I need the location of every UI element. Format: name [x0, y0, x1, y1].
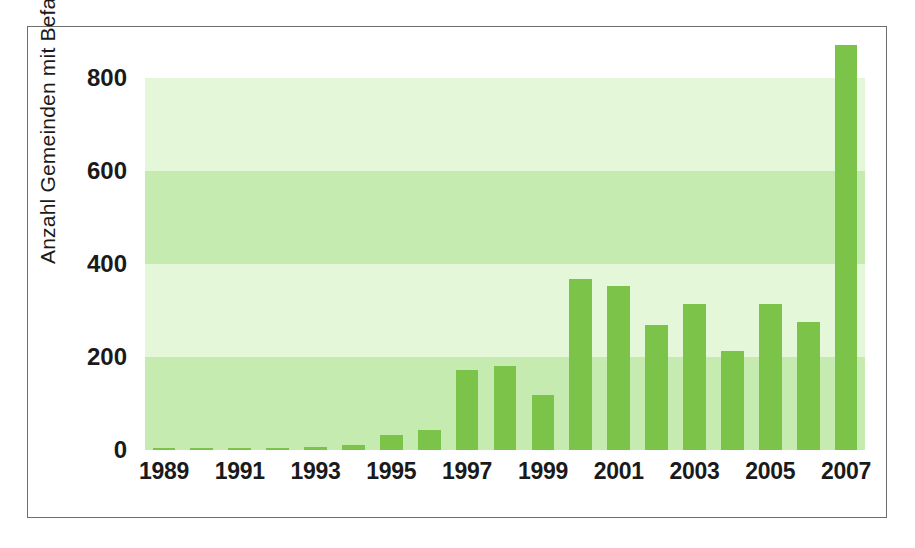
bar-1989 — [153, 448, 176, 450]
x-tick-label-1991: 1991 — [215, 458, 265, 485]
bar-2007 — [835, 45, 858, 450]
x-tick-label-1995: 1995 — [366, 458, 416, 485]
bar-1997 — [456, 370, 479, 450]
x-tick-label-1993: 1993 — [291, 458, 341, 485]
y-axis-title: Anzahl Gemeinden mit Befall — [36, 0, 60, 264]
y-tick-label-400: 400 — [87, 252, 127, 276]
plot-area — [145, 78, 865, 450]
bar-1996 — [418, 430, 441, 450]
bar-2003 — [683, 304, 706, 450]
bar-1998 — [494, 366, 517, 450]
bar-2006 — [797, 322, 820, 450]
y-tick-label-0: 0 — [114, 438, 127, 462]
x-tick-label-2003: 2003 — [669, 458, 719, 485]
bar-1993 — [304, 447, 327, 450]
x-tick-label-2001: 2001 — [594, 458, 644, 485]
bar-1990 — [190, 448, 213, 450]
y-tick-label-200: 200 — [87, 345, 127, 369]
bar-1991 — [228, 448, 251, 450]
bar-series — [145, 78, 865, 450]
bar-2001 — [607, 286, 630, 450]
x-tick-label-2007: 2007 — [821, 458, 871, 485]
bar-2004 — [721, 351, 744, 451]
bar-2005 — [759, 304, 782, 450]
figure: 0200400600800 Anzahl Gemeinden mit Befal… — [0, 0, 915, 548]
bar-1999 — [532, 395, 555, 450]
bar-1995 — [380, 435, 403, 450]
y-tick-label-600: 600 — [87, 159, 127, 183]
bar-2000 — [569, 279, 592, 450]
x-tick-label-1997: 1997 — [442, 458, 492, 485]
bar-1992 — [266, 448, 289, 450]
y-tick-label-800: 800 — [87, 66, 127, 90]
bar-1994 — [342, 445, 365, 450]
x-axis-tick-labels: 1989199119931995199719992001200320052007 — [145, 458, 865, 498]
bar-2002 — [645, 325, 668, 450]
x-tick-label-1999: 1999 — [518, 458, 568, 485]
x-tick-label-1989: 1989 — [139, 458, 189, 485]
y-axis-tick-labels: 0200400600800 — [0, 0, 145, 548]
x-tick-label-2005: 2005 — [745, 458, 795, 485]
